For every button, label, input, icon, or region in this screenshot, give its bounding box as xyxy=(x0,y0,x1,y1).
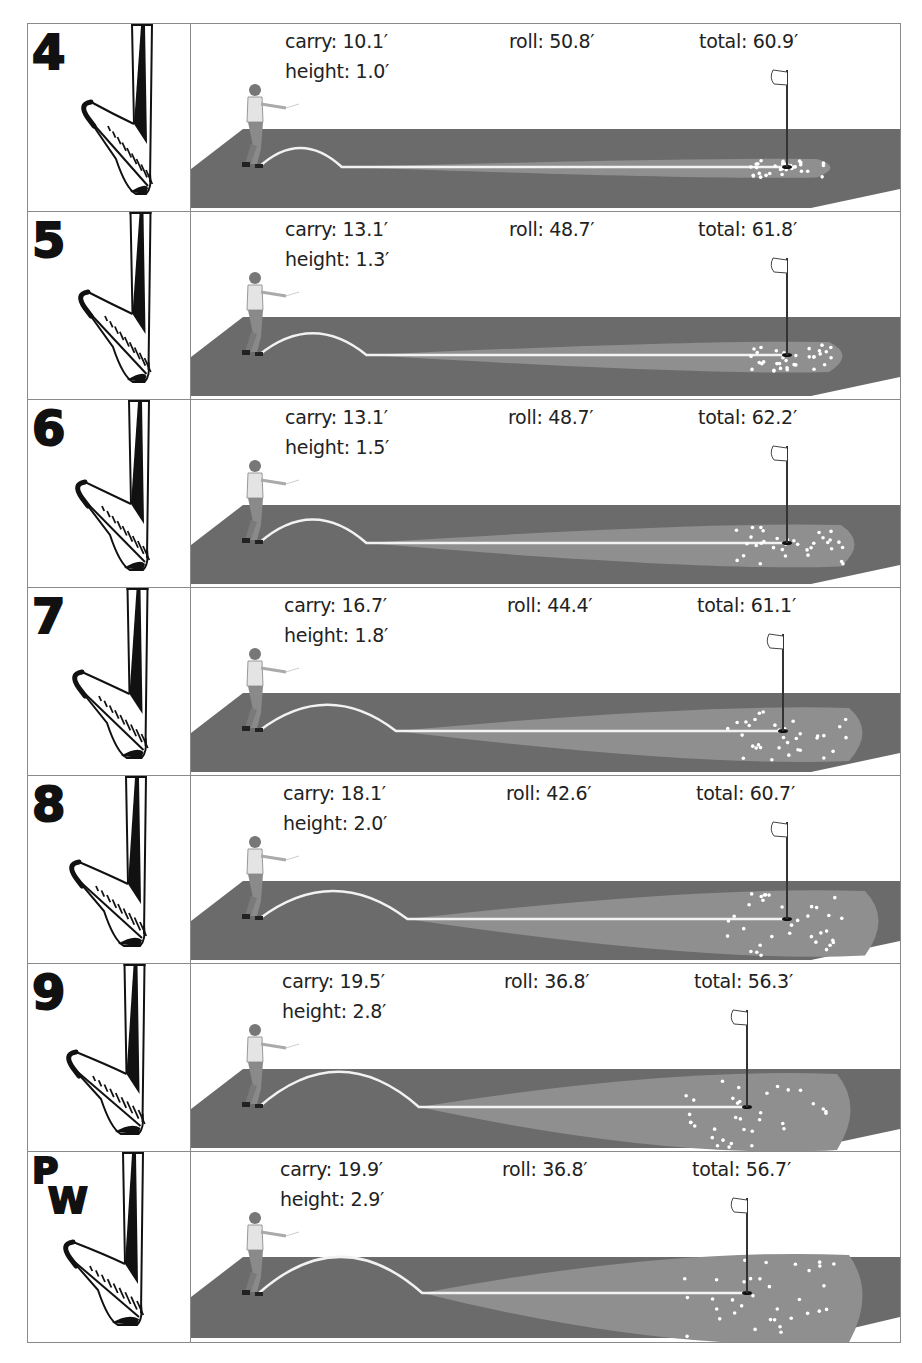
club-cell: 5 xyxy=(28,212,191,399)
shot-scene: carry: 19.5′ roll: 36.8′ total: 56.3′ he… xyxy=(191,964,900,1151)
shot-scene: carry: 19.9′ roll: 36.8′ total: 56.7′ he… xyxy=(191,1152,900,1342)
shot-scene: carry: 16.7′ roll: 44.4′ total: 61.1′ he… xyxy=(191,588,900,775)
shot-scene: carry: 13.1′ roll: 48.7′ total: 61.8′ he… xyxy=(191,212,900,399)
height-value: height: 1.3′ xyxy=(285,248,389,270)
total-value: total: 56.3′ xyxy=(694,970,793,992)
putting-green-illustration xyxy=(191,212,900,399)
roll-value: roll: 48.7′ xyxy=(508,406,593,428)
height-value: height: 1.8′ xyxy=(284,624,388,646)
roll-value: roll: 36.8′ xyxy=(504,970,589,992)
putting-green-illustration xyxy=(191,588,900,775)
carry-value: carry: 13.1′ xyxy=(285,406,388,428)
height-value: height: 2.8′ xyxy=(282,1000,386,1022)
height-value: height: 2.9′ xyxy=(280,1188,384,1210)
club-cell: 7 xyxy=(28,588,191,775)
roll-value: roll: 50.8′ xyxy=(509,30,594,52)
club-row-9: 9 carry: 19.5′ roll: 36.8′ total: 56.3′ … xyxy=(28,964,900,1152)
club-row-5: 5 carry: 13.1′ roll: 48.7′ total: 61.8′ … xyxy=(28,212,900,400)
total-value: total: 62.2′ xyxy=(698,406,797,428)
height-value: height: 1.0′ xyxy=(285,60,389,82)
club-cell: 4 xyxy=(28,24,191,211)
shot-scene: carry: 10.1′ roll: 50.8′ total: 60.9′ he… xyxy=(191,24,900,211)
carry-value: carry: 10.1′ xyxy=(285,30,388,52)
club-row-4: 4 carry: 10.1′ roll: 50.8′ total: 60.9′ … xyxy=(28,24,900,212)
total-value: total: 61.8′ xyxy=(698,218,797,240)
club-cell: 9 xyxy=(28,964,191,1151)
total-value: total: 60.7′ xyxy=(696,782,795,804)
height-value: height: 1.5′ xyxy=(285,436,389,458)
iron-clubhead-icon xyxy=(28,212,191,399)
club-row-6: 6 carry: 13.1′ roll: 48.7′ total: 62.2′ … xyxy=(28,400,900,588)
putting-green-illustration xyxy=(191,1152,900,1342)
putting-green-illustration xyxy=(191,24,900,211)
carry-value: carry: 16.7′ xyxy=(284,594,387,616)
height-value: height: 2.0′ xyxy=(283,812,387,834)
shot-scene: carry: 18.1′ roll: 42.6′ total: 60.7′ he… xyxy=(191,776,900,963)
club-row-8: 8 carry: 18.1′ roll: 42.6′ total: 60.7′ … xyxy=(28,776,900,964)
carry-value: carry: 13.1′ xyxy=(285,218,388,240)
roll-value: roll: 48.7′ xyxy=(509,218,594,240)
iron-clubhead-icon xyxy=(28,964,191,1151)
total-value: total: 61.1′ xyxy=(697,594,796,616)
total-value: total: 60.9′ xyxy=(699,30,798,52)
club-row-7: 7 carry: 16.7′ roll: 44.4′ total: 61.1′ … xyxy=(28,588,900,776)
carry-value: carry: 19.9′ xyxy=(280,1158,383,1180)
carry-value: carry: 19.5′ xyxy=(282,970,385,992)
club-cell: 8 xyxy=(28,776,191,963)
club-cell: P W xyxy=(28,1152,191,1342)
roll-value: roll: 36.8′ xyxy=(502,1158,587,1180)
total-value: total: 56.7′ xyxy=(692,1158,791,1180)
iron-clubhead-icon xyxy=(28,400,191,587)
club-cell: 6 xyxy=(28,400,191,587)
club-chip-chart: 4 carry: 10.1′ roll: 50.8′ total: 60.9′ … xyxy=(27,23,901,1343)
roll-value: roll: 42.6′ xyxy=(506,782,591,804)
putting-green-illustration xyxy=(191,964,900,1151)
putting-green-illustration xyxy=(191,400,900,587)
iron-clubhead-icon xyxy=(28,776,191,963)
wedge-clubhead-icon xyxy=(28,1152,191,1342)
club-row-pw: P W carry: 19.9′ roll: 36.8′ total: 56.7… xyxy=(28,1152,900,1342)
iron-clubhead-icon xyxy=(28,24,191,211)
roll-value: roll: 44.4′ xyxy=(507,594,592,616)
carry-value: carry: 18.1′ xyxy=(283,782,386,804)
shot-scene: carry: 13.1′ roll: 48.7′ total: 62.2′ he… xyxy=(191,400,900,587)
putting-green-illustration xyxy=(191,776,900,963)
iron-clubhead-icon xyxy=(28,588,191,775)
